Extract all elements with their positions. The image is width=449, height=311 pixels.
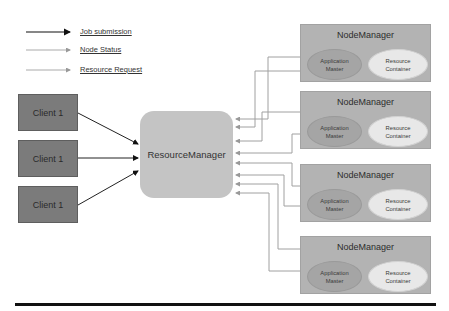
resource-manager-box: ResourceManager (140, 111, 233, 198)
node-manager-title: NodeManager (301, 170, 430, 180)
client-box: Client 1 (18, 140, 78, 177)
bottom-separator (15, 303, 436, 306)
client-label: Client 1 (33, 200, 64, 210)
application-master-ellipse: Application Master (307, 49, 362, 80)
client-label: Client 1 (33, 108, 64, 118)
resource-container-ellipse: Resource Container (368, 49, 428, 80)
client-label: Client 1 (33, 154, 64, 164)
legend-label: Resource Request (80, 64, 142, 76)
node-manager-box: NodeManager Application Master Resource … (300, 164, 431, 222)
legend-label: Job submission (80, 26, 132, 38)
application-master-ellipse: Application Master (307, 189, 362, 220)
application-master-ellipse: Application Master (307, 261, 362, 292)
client-box: Client 1 (18, 94, 78, 131)
job-arrow-1 (78, 113, 138, 144)
resource-container-ellipse: Resource Container (368, 116, 428, 147)
resource-container-ellipse: Resource Container (368, 261, 428, 292)
job-arrow-3 (78, 171, 138, 205)
node-manager-title: NodeManager (301, 30, 430, 40)
node-manager-box: NodeManager Application Master Resource … (300, 24, 431, 82)
application-master-ellipse: Application Master (307, 116, 362, 147)
resource-container-ellipse: Resource Container (368, 189, 428, 220)
node-manager-title: NodeManager (301, 242, 430, 252)
node-manager-title: NodeManager (301, 97, 430, 107)
client-box: Client 1 (18, 186, 78, 223)
node-manager-box: NodeManager Application Master Resource … (300, 236, 431, 294)
legend-label: Node Status (80, 44, 121, 56)
resource-manager-label: ResourceManager (147, 149, 225, 160)
node-manager-box: NodeManager Application Master Resource … (300, 91, 431, 149)
